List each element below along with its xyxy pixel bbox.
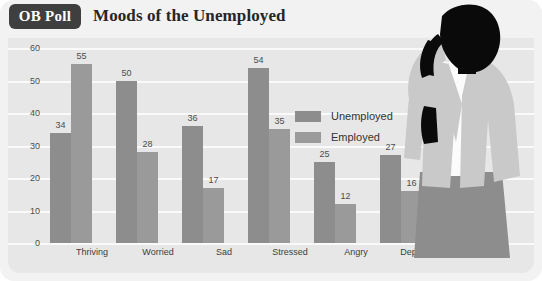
bar-value-label: 36 (182, 114, 203, 123)
chart-panel: OB Poll Moods of the Unemployed 60504030… (0, 0, 542, 281)
bar-value-label: 55 (71, 52, 92, 61)
bar-group: 3455Thriving (50, 48, 92, 243)
y-axis-tick-label: 20 (14, 174, 40, 183)
bar-value-label: 50 (116, 69, 137, 78)
x-axis-label: Stressed (255, 247, 325, 257)
y-axis-tick-label: 10 (14, 207, 40, 216)
bar (335, 204, 356, 243)
bar (50, 133, 71, 244)
ob-poll-badge: OB Poll (9, 4, 81, 29)
x-axis-label: Thriving (57, 247, 127, 257)
bar-groups: 3455Thriving5028Worried3617Sad5435Stress… (50, 48, 450, 243)
bar (269, 129, 290, 243)
x-axis-label: Angry (321, 247, 391, 257)
y-axis-tick-label: 50 (14, 77, 40, 86)
legend-label-employed: Employed (331, 129, 380, 145)
ob-poll-badge-label: OB Poll (9, 4, 81, 29)
bar-group: 5028Worried (116, 48, 158, 243)
y-axis-tick-label: 30 (14, 142, 40, 151)
bar-value-label: 34 (50, 121, 71, 130)
chart-title: Moods of the Unemployed (93, 6, 286, 26)
y-axis-tick-label: 40 (14, 109, 40, 118)
x-axis-label: Sad (189, 247, 259, 257)
bar (182, 126, 203, 243)
stressed-woman-silhouette (398, 0, 542, 281)
bar-group: 2512Angry (314, 48, 356, 243)
bar (71, 64, 92, 243)
bar-value-label: 17 (203, 176, 224, 185)
bar (203, 188, 224, 243)
bar-group: 5435Stressed (248, 48, 290, 243)
chart-infographic: OB Poll Moods of the Unemployed 60504030… (0, 0, 542, 281)
bar (314, 162, 335, 243)
bar (137, 152, 158, 243)
bar-value-label: 25 (314, 150, 335, 159)
legend-label-unemployed: Unemployed (331, 108, 393, 124)
x-axis-label: Worried (123, 247, 193, 257)
y-axis-tick-label: 0 (14, 239, 40, 248)
bar-value-label: 12 (335, 192, 356, 201)
bar-group: 3617Sad (182, 48, 224, 243)
legend-swatch-unemployed (295, 111, 321, 122)
y-axis-tick-label: 60 (14, 44, 40, 53)
silhouette-svg (398, 0, 542, 281)
bar (248, 68, 269, 244)
bar-value-label: 35 (269, 117, 290, 126)
bar-value-label: 28 (137, 140, 158, 149)
bar-value-label: 54 (248, 56, 269, 65)
legend-swatch-employed (295, 132, 321, 143)
bar (116, 81, 137, 244)
